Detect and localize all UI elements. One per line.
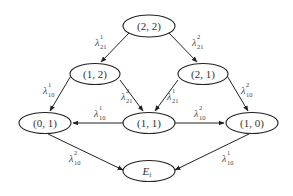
edge-label-11-10: λ 2 10 xyxy=(193,104,206,121)
edge-label-22-12: λ 1 21 xyxy=(94,33,107,50)
svg-text:10: 10 xyxy=(74,159,81,166)
svg-text:2: 2 xyxy=(197,33,200,40)
edge-label-22-21: λ 2 21 xyxy=(191,33,204,50)
svg-text:1: 1 xyxy=(227,149,230,156)
svg-text:1: 1 xyxy=(48,81,51,88)
edge-10-to-ef xyxy=(175,134,249,170)
edge-label-01-ef: λ 2 10 xyxy=(68,149,81,166)
svg-text:21: 21 xyxy=(197,43,204,50)
svg-text:10: 10 xyxy=(246,91,253,98)
node-1-0: (1, 0) xyxy=(226,113,278,134)
svg-text:1: 1 xyxy=(100,33,103,40)
svg-text:21: 21 xyxy=(126,97,133,104)
svg-text:21: 21 xyxy=(100,43,107,50)
node-label: (2, 1) xyxy=(191,68,215,81)
node-ef: Ef xyxy=(123,161,175,182)
node-label: (1, 0) xyxy=(240,117,264,130)
svg-text:10: 10 xyxy=(99,114,106,121)
node-1-2: (1, 2) xyxy=(70,64,120,85)
edge-01-to-ef xyxy=(48,134,123,170)
svg-text:10: 10 xyxy=(199,114,206,121)
svg-text:2: 2 xyxy=(246,81,249,88)
svg-text:10: 10 xyxy=(48,91,55,98)
edge-label-10-ef: λ 1 10 xyxy=(221,149,234,166)
edge-label-21-11: λ 1 21 xyxy=(166,87,179,104)
node-2-2: (2, 2) xyxy=(123,15,175,37)
edge-label-12-01: λ 1 10 xyxy=(42,81,55,98)
node-1-1: (1, 1) xyxy=(123,113,175,134)
node-0-1: (0, 1) xyxy=(19,113,71,134)
svg-text:2: 2 xyxy=(126,87,129,94)
svg-text:21: 21 xyxy=(172,97,179,104)
svg-text:2: 2 xyxy=(74,149,77,156)
state-transition-diagram: (2, 2) (1, 2) (2, 1) (0, 1) (1, 1) (1, 0… xyxy=(0,0,293,196)
svg-text:1: 1 xyxy=(172,87,175,94)
node-label: (1, 2) xyxy=(83,68,107,81)
node-label: (2, 2) xyxy=(137,20,161,33)
svg-text:1: 1 xyxy=(99,104,102,111)
edge-label-12-11: λ 2 21 xyxy=(120,87,133,104)
node-label: (0, 1) xyxy=(33,117,57,130)
svg-text:2: 2 xyxy=(199,104,202,111)
node-label: (1, 1) xyxy=(137,117,161,130)
edges xyxy=(48,33,249,170)
edge-label-21-10: λ 2 10 xyxy=(240,81,253,98)
node-2-1: (2, 1) xyxy=(178,64,228,85)
svg-text:10: 10 xyxy=(227,159,234,166)
edge-label-11-01: λ 1 10 xyxy=(93,104,106,121)
